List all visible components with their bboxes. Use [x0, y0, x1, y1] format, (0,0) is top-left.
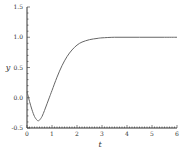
x-tick-label: 5 [150, 130, 154, 137]
axes [27, 7, 177, 128]
x-tick-label: 4 [125, 130, 129, 137]
y-tick-label: 0.5 [13, 64, 23, 71]
x-tick-label: 2 [75, 130, 79, 137]
tick-labels: 0123456-0.50.00.51.01.5 [11, 3, 179, 137]
data-line [27, 37, 177, 121]
x-tick-label: 0 [25, 130, 29, 137]
line-chart: 0123456-0.50.00.51.01.5 t y [0, 0, 182, 150]
x-tick-label: 3 [100, 130, 104, 137]
ticks [27, 7, 177, 128]
y-axis-label: y [5, 63, 11, 72]
x-axis-label: t [98, 140, 102, 149]
y-tick-label: 1.5 [13, 3, 23, 10]
x-tick-label: 1 [50, 130, 54, 137]
x-tick-label: 6 [175, 130, 179, 137]
y-tick-label: 1.0 [13, 33, 23, 40]
y-tick-label: -0.5 [11, 124, 23, 131]
y-tick-label: 0.0 [13, 94, 23, 101]
